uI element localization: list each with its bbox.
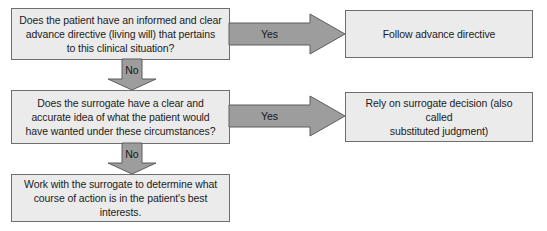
arrow-yes-advance-directive-label: Yes	[229, 28, 310, 40]
outcome-node-follow-advance-directive: Follow advance directive	[345, 10, 533, 58]
arrow-yes-surrogate-knowledge-label: Yes	[229, 110, 310, 122]
decision-node-advance-directive: Does the patient have an informed and cl…	[11, 8, 230, 60]
flowchart-diagram: Does the patient have an informed and cl…	[0, 0, 547, 231]
arrow-no-advance-directive: No	[107, 59, 157, 91]
outcome-node-best-interests: Work with the surrogate to determine wha…	[11, 174, 230, 222]
outcome-node-best-interests-label: Work with the surrogate to determine wha…	[24, 177, 217, 219]
outcome-node-substituted-judgment: Rely on surrogate decision (also called …	[345, 92, 533, 142]
decision-node-advance-directive-label: Does the patient have an informed and cl…	[19, 13, 221, 55]
arrow-no-advance-directive-label: No	[107, 64, 157, 76]
decision-node-surrogate-knowledge: Does the surrogate have a clear and accu…	[11, 90, 230, 144]
decision-node-surrogate-knowledge-label: Does the surrogate have a clear and accu…	[26, 96, 216, 138]
arrow-yes-surrogate-knowledge: Yes	[229, 95, 346, 137]
arrow-no-surrogate-knowledge-label: No	[107, 148, 157, 160]
outcome-node-substituted-judgment-label: Rely on surrogate decision (also called …	[352, 96, 526, 138]
outcome-node-follow-advance-directive-label: Follow advance directive	[383, 27, 496, 41]
arrow-yes-advance-directive: Yes	[229, 13, 346, 55]
arrow-no-surrogate-knowledge: No	[107, 143, 157, 175]
